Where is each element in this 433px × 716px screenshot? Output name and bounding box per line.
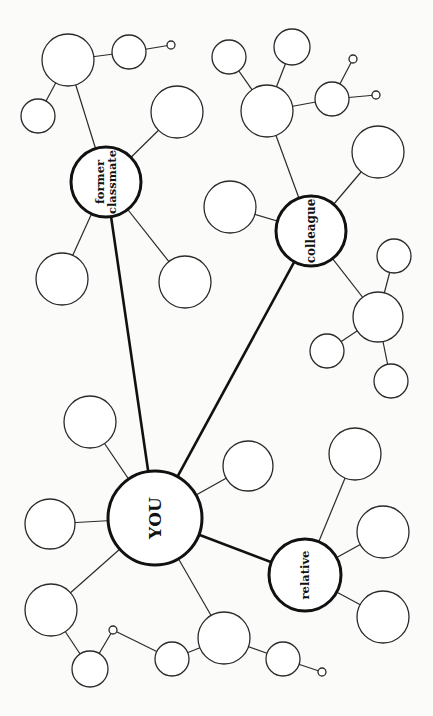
colleague-node: colleague xyxy=(276,196,346,266)
small-node-dot xyxy=(318,668,326,676)
empty-node-circle xyxy=(155,642,189,676)
empty-node-circle xyxy=(352,126,404,178)
empty-node-circle xyxy=(64,396,116,448)
small-node-dot xyxy=(167,41,175,49)
former-node: formerclassmate xyxy=(71,147,141,217)
empty-node-circle xyxy=(159,256,211,308)
diagram-canvas: YOUformerclassmatecolleaguerelative xyxy=(0,0,433,716)
empty-node-circle xyxy=(241,85,293,137)
empty-node-circle xyxy=(36,253,88,305)
empty-node-circle xyxy=(353,292,403,342)
empty-node-circle xyxy=(223,441,273,491)
relative-node: relative xyxy=(269,539,341,611)
empty-node-circle xyxy=(25,499,75,549)
colleague-node-label: colleague xyxy=(304,198,318,263)
empty-node-circle xyxy=(266,642,300,676)
empty-node-circle xyxy=(310,334,344,368)
empty-node-circle xyxy=(198,612,250,664)
main-edge-you-former xyxy=(106,182,155,518)
small-node-dot xyxy=(372,91,380,99)
empty-node-circle xyxy=(212,40,246,74)
empty-node-circle xyxy=(357,506,409,558)
empty-node-circle xyxy=(42,34,94,86)
small-node-dot xyxy=(349,55,357,63)
empty-node-circle xyxy=(21,99,55,133)
you-node: YOU xyxy=(108,471,202,565)
empty-node-circle xyxy=(112,35,146,69)
empty-node-circle xyxy=(151,86,203,138)
network-diagram: YOUformerclassmatecolleaguerelative xyxy=(0,0,433,716)
small-node-dot xyxy=(109,626,117,634)
nodes: YOUformerclassmatecolleaguerelative xyxy=(21,29,411,687)
empty-node-circle xyxy=(315,82,349,116)
empty-node-circle xyxy=(357,591,409,643)
relative-node-label: relative xyxy=(298,551,312,600)
empty-node-circle xyxy=(204,181,256,233)
empty-node-circle xyxy=(72,651,108,687)
empty-node-circle xyxy=(25,584,77,636)
empty-node-circle xyxy=(377,239,411,273)
empty-node-circle xyxy=(329,428,381,480)
empty-node-circle xyxy=(374,364,408,398)
you-node-label: YOU xyxy=(145,497,165,540)
empty-node-circle xyxy=(274,29,310,65)
